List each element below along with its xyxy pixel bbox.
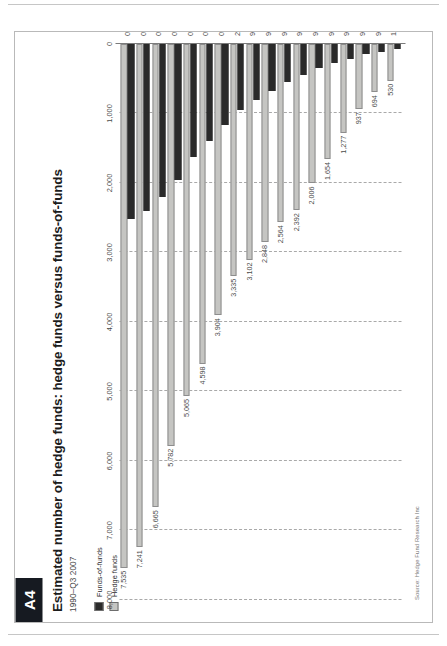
bar-value-label: 7,535 xyxy=(119,571,128,589)
x-axis-tick-label: 3,000 xyxy=(104,243,113,262)
bar-hedge-funds xyxy=(214,44,220,315)
bar-hedge-funds xyxy=(183,44,189,396)
bar-funds-of-funds xyxy=(159,44,165,197)
bar-funds-of-funds xyxy=(362,44,368,54)
bar-value-label: 2,564 xyxy=(276,225,285,243)
bar-hedge-funds xyxy=(340,44,346,133)
y-axis-category-label: 92 xyxy=(357,32,366,36)
figure-badge: A4 xyxy=(15,578,42,622)
top-divider xyxy=(8,4,439,5)
bar-funds-of-funds xyxy=(174,44,180,180)
bar-funds-of-funds xyxy=(221,44,227,125)
figure-subtitle: 1990–Q3 2007 xyxy=(68,557,77,612)
bar-funds-of-funds xyxy=(315,44,321,68)
bar-value-label: 530 xyxy=(385,84,394,96)
y-axis-category-label: 04 xyxy=(169,32,178,36)
bar-funds-of-funds xyxy=(300,44,306,75)
bar-funds-of-funds xyxy=(284,44,290,82)
bar-value-label: 5,782 xyxy=(166,449,175,467)
bar-hedge-funds xyxy=(371,44,377,92)
chart-source: Source: Hedge Fund Research Inc xyxy=(413,506,419,600)
gridline xyxy=(119,321,401,322)
bar-value-label: 7,241 xyxy=(135,550,144,568)
x-axis-tick-label: 0 xyxy=(104,42,113,46)
bar-hedge-funds xyxy=(355,44,361,109)
bar-funds-of-funds xyxy=(190,44,196,157)
bar-value-label: 3,102 xyxy=(244,263,253,281)
bar-hedge-funds xyxy=(246,44,252,260)
figure-canvas: A4 Estimated number of hedge funds: hedg… xyxy=(15,32,432,622)
bar-hedge-funds xyxy=(230,44,236,276)
bar-funds-of-funds xyxy=(253,44,259,100)
gridline xyxy=(119,391,401,392)
bar-value-label: 2,848 xyxy=(260,245,269,263)
bar-hedge-funds xyxy=(293,44,299,210)
bar-value-label: 6,665 xyxy=(150,510,159,528)
y-axis-category-label: 02 xyxy=(201,32,210,36)
y-axis-category-label: 06 xyxy=(138,32,147,36)
bar-hedge-funds xyxy=(277,44,283,222)
bar-value-label: 694 xyxy=(370,95,379,107)
gridline xyxy=(119,599,401,600)
bar-funds-of-funds xyxy=(143,44,149,211)
figure-title: Estimated number of hedge funds: hedge f… xyxy=(49,169,64,612)
y-axis-category-label: 99 xyxy=(248,32,257,36)
bar-hedge-funds xyxy=(136,44,142,547)
legend-item-funds-of-funds: Funds-of-funds xyxy=(93,547,104,611)
bar-hedge-funds xyxy=(261,44,267,242)
bar-funds-of-funds xyxy=(394,44,400,49)
bar-value-label: 5,065 xyxy=(182,399,191,417)
y-axis-category-label: 98 xyxy=(263,32,272,36)
bar-hedge-funds xyxy=(387,44,393,81)
x-axis-tick-label: 8,000 xyxy=(104,591,113,610)
bar-value-label: 4,598 xyxy=(197,367,206,385)
legend-swatch-icon xyxy=(94,602,103,611)
y-axis-category-label: 2000 xyxy=(232,32,241,36)
bar-value-label: 3,335 xyxy=(229,279,238,297)
y-axis-category-label: 07 xyxy=(122,32,131,36)
bar-value-label: 1,654 xyxy=(323,162,332,180)
bar-funds-of-funds xyxy=(378,44,384,52)
gridline xyxy=(119,460,401,461)
bar-hedge-funds xyxy=(308,44,314,183)
bar-funds-of-funds xyxy=(237,44,243,110)
y-axis-category-label: 93 xyxy=(342,32,351,36)
bar-funds-of-funds xyxy=(331,44,337,63)
y-axis-category-label: 95 xyxy=(310,32,319,36)
x-axis-tick-label: 4,000 xyxy=(104,313,113,332)
bar-hedge-funds xyxy=(199,44,205,364)
bar-funds-of-funds xyxy=(127,44,133,219)
y-axis-category-label: 94 xyxy=(326,32,335,36)
bar-hedge-funds xyxy=(324,44,330,159)
chart-plot-area: 01,0002,0003,0004,0005,0006,0007,0008,00… xyxy=(119,44,401,600)
y-axis-category-label: 97 xyxy=(279,32,288,36)
bar-funds-of-funds xyxy=(268,44,274,91)
y-axis-category-label: 91 xyxy=(373,32,382,36)
bar-value-label: 1,277 xyxy=(338,136,347,154)
bar-hedge-funds xyxy=(152,44,158,507)
bar-value-label: 3,904 xyxy=(213,318,222,336)
x-axis-tick-label: 1,000 xyxy=(104,104,113,123)
bar-hedge-funds xyxy=(120,44,126,568)
bar-hedge-funds xyxy=(167,44,173,446)
x-axis-tick-label: 5,000 xyxy=(104,382,113,401)
bar-funds-of-funds xyxy=(347,44,353,59)
bar-value-label: 937 xyxy=(354,112,363,124)
bar-value-label: 2,392 xyxy=(291,213,300,231)
bar-value-label: 2,006 xyxy=(307,186,316,204)
x-axis-tick-label: 7,000 xyxy=(104,521,113,540)
bottom-divider xyxy=(8,634,439,635)
y-axis-category-label: 96 xyxy=(295,32,304,36)
x-axis-tick-label: 2,000 xyxy=(104,174,113,193)
y-axis-category-label: 01 xyxy=(216,32,225,36)
y-axis-category-label: 1990 xyxy=(389,32,398,36)
y-axis-category-label: 05 xyxy=(154,32,163,36)
x-axis-tick-label: 6,000 xyxy=(104,452,113,471)
bar-funds-of-funds xyxy=(206,44,212,141)
gridline xyxy=(119,530,401,531)
legend-label: Funds-of-funds xyxy=(94,547,103,597)
rotated-figure-wrapper: A4 Estimated number of hedge funds: hedg… xyxy=(15,32,432,622)
y-axis-category-label: 03 xyxy=(185,32,194,36)
figure-page: A4 Estimated number of hedge funds: hedg… xyxy=(0,0,447,646)
